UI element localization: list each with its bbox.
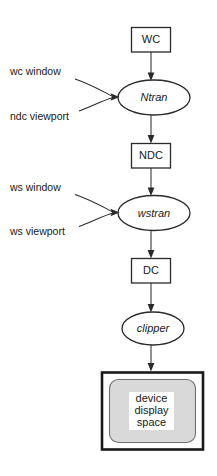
connector-wc-to-ntran <box>148 52 155 81</box>
side-label-ndc-viewport-text: ndc viewport <box>10 110 69 122</box>
node-wc[interactable]: WC <box>132 28 171 53</box>
node-ndc-label: NDC <box>139 149 163 161</box>
node-dc-label: DC <box>143 264 159 276</box>
connector-ndc-to-wstran <box>148 168 155 196</box>
node-dc[interactable]: DC <box>132 259 171 284</box>
side-label-wc-window: wc window <box>9 65 61 77</box>
node-wstran[interactable]: wstran <box>118 196 190 231</box>
side-label-ws-viewport-text: ws viewport <box>9 225 65 237</box>
screen-label-line-2: display <box>134 404 169 416</box>
pipeline-diagram: WC Ntran NDC wstran DC clipper <box>0 0 217 476</box>
node-ntran[interactable]: Ntran <box>118 80 190 115</box>
connector-ntran-to-ndc <box>148 115 155 144</box>
node-clipper-label: clipper <box>137 322 171 334</box>
side-connectors-wstran <box>75 195 120 227</box>
node-wc-label: WC <box>142 33 160 45</box>
side-label-wc-window-text: wc window <box>9 65 61 77</box>
side-label-ws-window: ws window <box>9 181 61 193</box>
side-label-ws-viewport: ws viewport <box>9 225 65 237</box>
side-label-ws-window-text: ws window <box>9 181 61 193</box>
screen-label-line-1: device <box>136 392 168 404</box>
connector-wstran-to-dc <box>148 230 155 259</box>
connector-clipper-to-screen <box>148 345 155 372</box>
node-ndc[interactable]: NDC <box>132 144 171 169</box>
diagram-canvas: WC Ntran NDC wstran DC clipper <box>0 0 217 476</box>
side-connectors-ntran <box>75 79 120 111</box>
node-device-display-space[interactable]: device display space <box>102 373 203 450</box>
node-clipper[interactable]: clipper <box>122 312 184 345</box>
side-label-ndc-viewport: ndc viewport <box>10 110 69 122</box>
connector-dc-to-clipper <box>148 283 155 313</box>
screen-label-line-3: space <box>137 416 166 428</box>
node-wstran-label: wstran <box>138 207 170 219</box>
node-ntran-label: Ntran <box>141 91 168 103</box>
